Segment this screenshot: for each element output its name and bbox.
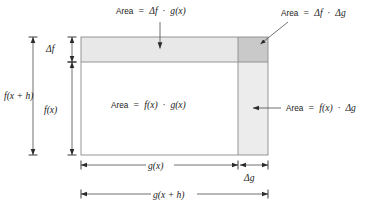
corner-label-dot: · (327, 7, 330, 18)
top-strip-label-dot: · (162, 5, 165, 16)
region-top-strip-fill (81, 37, 238, 62)
height-delta-label-text: Δf (45, 43, 56, 54)
corner-pointer-arrow (261, 22, 289, 44)
right-strip-label-group: Area = f(x) · Δg (253, 102, 356, 114)
width-outer-label: g(x + h) (153, 189, 185, 201)
height-inner-dimension: f(x) (44, 62, 77, 155)
base-label-factor-b: g(x) (170, 99, 185, 111)
corner-label: Area = Δf · Δg (281, 7, 346, 18)
top-strip-label: Area = Δf · g(x) (116, 5, 186, 17)
corner-label-factor-b: Δg (334, 7, 346, 18)
region-right-strip-fill (238, 62, 268, 155)
width-inner-label: g(x) (148, 160, 163, 172)
width-delta-label: Δg (243, 172, 255, 183)
width-outer-label-text: g(x + h) (153, 189, 185, 201)
area-regions (81, 37, 268, 155)
top-strip-label-prefix: Area (116, 7, 134, 16)
base-label-group: Area = f(x) · g(x) (111, 99, 186, 111)
height-delta-label: Δf (45, 43, 56, 54)
region-corner-fill (238, 37, 268, 62)
base-label: Area = f(x) · g(x) (111, 99, 186, 111)
right-strip-label-factor-b: Δg (344, 102, 356, 113)
top-strip-label-factor-a: Δf (148, 5, 159, 16)
width-outer-dimension: g(x + h) (81, 188, 268, 201)
right-strip-label-equals: = (309, 102, 314, 113)
base-label-equals: = (134, 99, 139, 110)
height-outer-label: f(x + h) (4, 90, 33, 102)
right-strip-label-factor-a: f(x) (319, 102, 332, 114)
figure-canvas: Area = Δf · g(x) Area = Δf · Δg Area = f… (0, 0, 372, 209)
width-delta-dimension: Δg (240, 161, 268, 184)
right-strip-label-prefix: Area (286, 104, 304, 113)
corner-label-group: Area = Δf · Δg (261, 7, 346, 44)
height-inner-label-text: f(x) (44, 104, 57, 116)
height-outer-label-text: f(x + h) (4, 90, 33, 102)
width-inner-label-text: g(x) (148, 160, 163, 172)
corner-label-factor-a: Δf (313, 7, 324, 18)
width-inner-dimension: g(x) (81, 159, 238, 172)
height-delta-dimension: Δf (45, 37, 77, 62)
right-strip-label-dot: · (337, 102, 340, 113)
top-strip-label-factor-b: g(x) (170, 5, 185, 17)
base-label-prefix: Area (111, 101, 129, 110)
height-inner-label: f(x) (44, 104, 57, 116)
corner-label-prefix: Area (281, 9, 299, 18)
product-rule-diagram: Area = Δf · g(x) Area = Δf · Δg Area = f… (0, 0, 372, 209)
top-strip-label-equals: = (139, 5, 144, 16)
width-delta-label-text: Δg (243, 172, 255, 183)
right-strip-label: Area = f(x) · Δg (286, 102, 356, 114)
height-outer-dimension: f(x + h) (4, 37, 38, 155)
corner-label-equals: = (304, 7, 309, 18)
base-label-factor-a: f(x) (144, 99, 157, 111)
base-label-dot: · (162, 99, 165, 110)
